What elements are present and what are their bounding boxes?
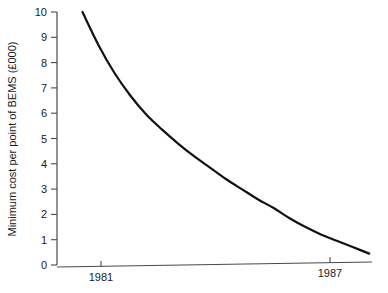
y-tick-label: 5 <box>41 133 47 145</box>
y-axis-title: Minimum cost per point of BEMS (£000) <box>6 41 18 236</box>
data-series-line <box>82 12 369 254</box>
line-chart: 10 9 8 7 6 5 4 3 2 1 0 1981 1987 Minimum… <box>0 0 388 293</box>
y-tick-label: 7 <box>41 82 47 94</box>
chart-container: 10 9 8 7 6 5 4 3 2 1 0 1981 1987 Minimum… <box>0 0 388 293</box>
y-axis-ticks <box>51 12 57 265</box>
y-tick-label: 1 <box>41 234 47 246</box>
y-tick-label: 2 <box>41 208 47 220</box>
y-tick-label: 0 <box>41 259 47 271</box>
y-tick-label: 4 <box>41 158 47 170</box>
y-tick-label: 6 <box>41 107 47 119</box>
x-tick-label: 1987 <box>318 267 342 279</box>
y-tick-label: 10 <box>35 6 47 18</box>
x-tick-label: 1981 <box>89 271 113 283</box>
y-tick-label: 8 <box>41 57 47 69</box>
y-tick-label: 9 <box>41 31 47 43</box>
y-tick-label: 3 <box>41 183 47 195</box>
